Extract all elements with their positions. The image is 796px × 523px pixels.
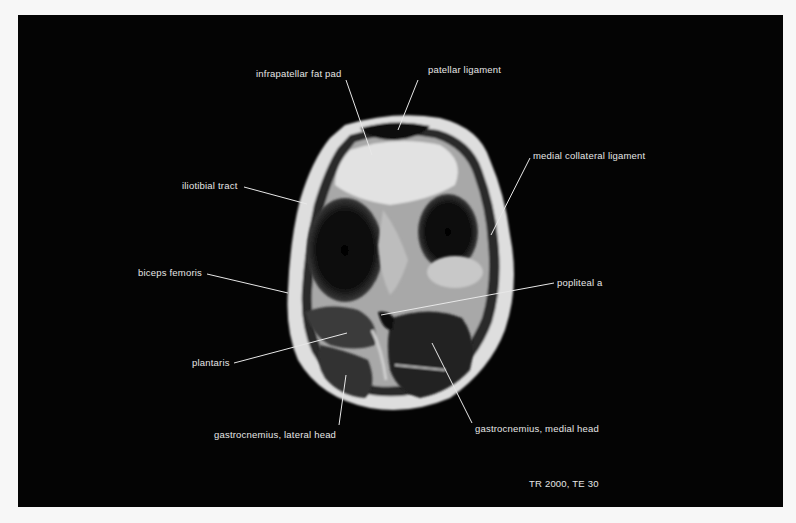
label-gastrocnemius-lateral-head: gastrocnemius, lateral head	[214, 429, 336, 440]
label-gastrocnemius-medial-head: gastrocnemius, medial head	[475, 423, 599, 434]
label-biceps-femoris: biceps femoris	[138, 267, 202, 278]
label-iliotibial-tract: iliotibial tract	[182, 180, 237, 191]
lateral-femoral-condyle	[307, 198, 383, 302]
label-medial-collateral-ligament: medial collateral ligament	[533, 150, 645, 161]
sequence-parameters: TR 2000, TE 30	[529, 478, 599, 489]
mri-knee-axial-scan	[0, 0, 796, 523]
label-patellar-ligament: patellar ligament	[428, 64, 501, 75]
label-plantaris: plantaris	[192, 357, 230, 368]
label-infrapatellar-fat-pad: infrapatellar fat pad	[256, 68, 342, 79]
label-popliteal-a: popliteal a	[557, 277, 603, 288]
